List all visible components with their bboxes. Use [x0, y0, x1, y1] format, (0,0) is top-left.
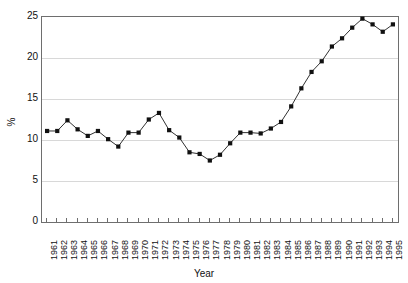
- x-tick-mark: [158, 218, 159, 222]
- x-tick-label: 1994: [385, 240, 394, 260]
- x-tick-mark: [341, 218, 342, 222]
- x-tick-label: 1986: [304, 240, 313, 260]
- x-tick-mark: [199, 218, 200, 222]
- x-tick-mark: [66, 218, 67, 222]
- x-tick-mark: [382, 218, 383, 222]
- x-tick-mark: [229, 218, 230, 222]
- data-point-marker: [238, 131, 242, 135]
- data-point-marker: [320, 59, 324, 63]
- x-tick-label: 1967: [111, 240, 120, 260]
- x-tick-mark: [188, 218, 189, 222]
- data-series: [42, 17, 398, 222]
- x-tick-label: 1974: [182, 240, 191, 260]
- data-point-marker: [96, 129, 100, 133]
- data-point-marker: [147, 117, 151, 121]
- plot-area: [41, 16, 399, 223]
- data-point-marker: [208, 158, 212, 162]
- data-point-marker: [86, 134, 90, 138]
- x-tick-mark: [331, 218, 332, 222]
- data-point-marker: [65, 118, 69, 122]
- data-point-marker: [76, 127, 80, 131]
- x-tick-label: 1991: [355, 240, 364, 260]
- x-tick-label: 1963: [70, 240, 79, 260]
- x-tick-mark: [127, 218, 128, 222]
- y-tick-label: 0: [16, 216, 38, 226]
- x-tick-mark: [77, 218, 78, 222]
- data-point-marker: [259, 131, 263, 135]
- x-tick-mark: [290, 218, 291, 222]
- x-tick-label: 1961: [50, 240, 59, 260]
- x-tick-mark: [117, 218, 118, 222]
- y-tick-label: 25: [16, 11, 38, 21]
- x-tick-label: 1973: [172, 240, 181, 260]
- x-tick-label: 1982: [263, 240, 272, 260]
- data-point-marker: [228, 141, 232, 145]
- data-point-marker: [106, 137, 110, 141]
- data-point-marker: [126, 131, 130, 135]
- x-tick-label: 1969: [131, 240, 140, 260]
- x-tick-label: 1976: [202, 240, 211, 260]
- x-tick-mark: [300, 218, 301, 222]
- x-tick-mark: [311, 218, 312, 222]
- x-tick-mark: [148, 218, 149, 222]
- x-tick-label: 1971: [151, 240, 160, 260]
- x-tick-mark: [280, 218, 281, 222]
- x-axis-title: Year: [0, 268, 408, 279]
- x-tick-mark: [219, 218, 220, 222]
- x-tick-label: 1980: [243, 240, 252, 260]
- x-tick-mark: [46, 218, 47, 222]
- x-tick-mark: [239, 218, 240, 222]
- x-tick-label: 1995: [395, 240, 404, 260]
- data-point-marker: [269, 126, 273, 130]
- data-point-marker: [360, 17, 364, 21]
- x-tick-label: 1972: [161, 240, 170, 260]
- x-tick-label: 1984: [284, 240, 293, 260]
- x-tick-mark: [321, 218, 322, 222]
- x-tick-label: 1987: [314, 240, 323, 260]
- data-point-marker: [45, 129, 49, 133]
- data-point-marker: [391, 22, 395, 26]
- y-tick-label: 15: [16, 93, 38, 103]
- x-tick-mark: [209, 218, 210, 222]
- data-point-marker: [137, 131, 141, 135]
- x-tick-mark: [392, 218, 393, 222]
- x-tick-label: 1985: [294, 240, 303, 260]
- x-tick-label: 1962: [60, 240, 69, 260]
- x-tick-label: 1978: [223, 240, 232, 260]
- x-tick-label: 1975: [192, 240, 201, 260]
- x-tick-mark: [97, 218, 98, 222]
- data-point-marker: [157, 111, 161, 115]
- x-tick-mark: [351, 218, 352, 222]
- x-tick-mark: [361, 218, 362, 222]
- data-point-marker: [279, 120, 283, 124]
- data-point-marker: [187, 150, 191, 154]
- x-tick-label: 1964: [80, 240, 89, 260]
- y-axis-tick-labels: 0510152025: [16, 10, 38, 223]
- y-tick-label: 20: [16, 52, 38, 62]
- x-tick-mark: [178, 218, 179, 222]
- data-point-marker: [289, 104, 293, 108]
- data-point-marker: [55, 129, 59, 133]
- data-point-marker: [330, 44, 334, 48]
- x-tick-mark: [250, 218, 251, 222]
- data-point-marker: [218, 153, 222, 157]
- x-tick-label: 1990: [345, 240, 354, 260]
- line-chart: % 0510152025 196119621963196419651966196…: [0, 0, 408, 283]
- x-tick-mark: [270, 218, 271, 222]
- x-tick-mark: [168, 218, 169, 222]
- x-tick-label: 1989: [334, 240, 343, 260]
- data-point-marker: [116, 144, 120, 148]
- x-tick-mark: [87, 218, 88, 222]
- y-tick-label: 10: [16, 134, 38, 144]
- x-tick-label: 1992: [365, 240, 374, 260]
- x-axis-tick-labels: 1961196219631964196519661967196819691970…: [41, 222, 397, 262]
- data-point-marker: [340, 36, 344, 40]
- data-point-marker: [309, 70, 313, 74]
- x-tick-mark: [56, 218, 57, 222]
- data-point-marker: [350, 26, 354, 30]
- data-point-marker: [299, 86, 303, 90]
- data-point-marker: [167, 128, 171, 132]
- x-tick-label: 1988: [324, 240, 333, 260]
- x-tick-label: 1981: [253, 240, 262, 260]
- x-tick-mark: [372, 218, 373, 222]
